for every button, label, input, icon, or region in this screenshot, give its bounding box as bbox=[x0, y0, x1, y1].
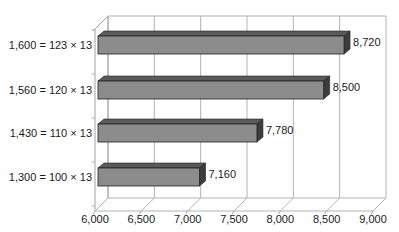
x-tick-label: 7,000 bbox=[174, 213, 202, 225]
category-label: 1,430 = 110 × 13 bbox=[10, 127, 92, 139]
floor-gridline bbox=[188, 198, 201, 211]
value-label: 8,500 bbox=[333, 81, 361, 93]
value-label: 7,160 bbox=[208, 168, 236, 180]
floor-gridline bbox=[234, 198, 247, 211]
x-tick-label: 9,000 bbox=[359, 213, 387, 225]
floor-gridline bbox=[95, 198, 108, 211]
category-labels: 1,600 = 123 × 131,560 = 120 × 131,430 = … bbox=[9, 39, 92, 183]
value-label: 7,780 bbox=[266, 124, 294, 136]
bars bbox=[98, 31, 350, 186]
value-label: 8,720 bbox=[353, 36, 381, 48]
bar bbox=[98, 76, 330, 99]
floor-gridline bbox=[141, 198, 154, 211]
x-tick-label: 8,000 bbox=[267, 213, 295, 225]
bar bbox=[98, 163, 205, 186]
x-tick-label: 7,500 bbox=[220, 213, 248, 225]
x-axis-tick-labels: 6,0006,5007,0007,5008,0008,5009,000 bbox=[81, 213, 387, 225]
floor-gridline bbox=[373, 198, 386, 211]
category-label: 1,560 = 120 × 13 bbox=[9, 84, 92, 96]
x-tick-label: 6,500 bbox=[128, 213, 156, 225]
category-label: 1,600 = 123 × 13 bbox=[9, 39, 92, 51]
floor-gridline bbox=[327, 198, 340, 211]
x-tick-label: 8,500 bbox=[313, 213, 341, 225]
floor-gridline bbox=[280, 198, 293, 211]
value-labels: 8,7208,5007,7807,160 bbox=[208, 36, 380, 180]
bar bbox=[98, 31, 350, 54]
bar-chart: 1,600 = 123 × 131,560 = 120 × 131,430 = … bbox=[0, 0, 399, 232]
x-tick-label: 6,000 bbox=[81, 213, 109, 225]
category-label: 1,300 = 100 × 13 bbox=[9, 171, 92, 183]
bar bbox=[98, 119, 263, 142]
